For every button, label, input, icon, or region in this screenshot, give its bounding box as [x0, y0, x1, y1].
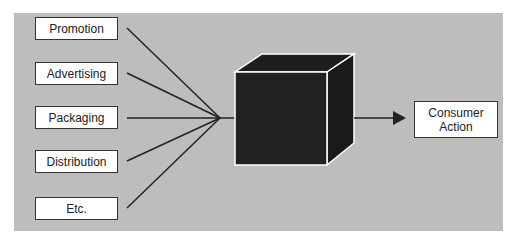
- input-box-advertising: Advertising: [35, 62, 118, 85]
- input-label: Packaging: [48, 111, 104, 125]
- black-box-cube: [235, 54, 354, 165]
- output-box-consumer-action: Consumer Action: [414, 101, 498, 138]
- input-box-distribution: Distribution: [35, 150, 118, 173]
- input-label: Etc.: [66, 202, 87, 216]
- input-label: Distribution: [46, 155, 106, 169]
- input-label: Promotion: [49, 22, 104, 36]
- input-box-etc: Etc.: [35, 197, 118, 220]
- output-label-line1: Consumer: [428, 106, 483, 120]
- output-label-line2: Action: [439, 120, 472, 134]
- input-box-packaging: Packaging: [35, 106, 118, 129]
- input-label: Advertising: [47, 67, 106, 81]
- arrowhead-icon: [393, 111, 406, 125]
- input-box-promotion: Promotion: [35, 17, 118, 40]
